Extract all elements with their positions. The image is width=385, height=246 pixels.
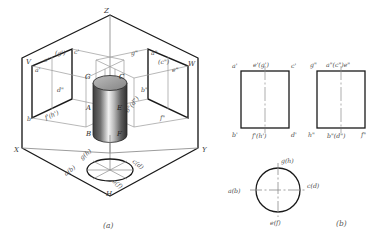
technical-drawing: Z X Y V W H a' e' (g') c' b' f'(h') d" xyxy=(0,0,385,246)
label-b-prime-pictorial: b' xyxy=(27,115,33,122)
top-view-label-a-b: a(b) xyxy=(228,187,241,194)
label-a-b-pictorial: a(b) xyxy=(62,163,77,177)
v-rail-lower xyxy=(32,66,86,127)
caption-b: (b) xyxy=(336,219,347,228)
side-view-label-g-dprime: g" xyxy=(310,61,317,69)
label-a-prime-pictorial: a' xyxy=(35,66,41,73)
side-view-label-h-dprime: h" xyxy=(308,131,315,138)
front-view-label-c-prime: c' xyxy=(291,62,296,69)
pictorial-view: Z X Y V W H a' e' (g') c' b' f'(h') d" xyxy=(13,7,208,230)
front-view-label-a-prime: a' xyxy=(232,62,238,69)
label-B-solid: B xyxy=(85,130,91,138)
cylinder-body xyxy=(93,83,127,143)
top-view-label-g-h: g(h) xyxy=(281,157,294,165)
label-b-dprime-pictorial: b" xyxy=(141,86,148,93)
top-view-label-e-f: e(f) xyxy=(270,219,281,227)
label-C-solid: C xyxy=(119,73,125,81)
caption-a: (a) xyxy=(103,221,113,230)
label-c-dprime-pictorial: (c") xyxy=(158,58,170,65)
side-view-label-f-dprime: f" xyxy=(360,131,366,139)
side-view-label-a-c-e-dprime: a"(c")e" xyxy=(326,61,350,68)
axis-label-z: Z xyxy=(103,7,109,15)
side-view-label-b-d-dprime: b"(d") xyxy=(327,132,346,139)
front-view xyxy=(241,66,289,133)
side-view xyxy=(317,66,365,133)
axis-label-x: X xyxy=(13,146,20,154)
label-g-dprime-pictorial: g" xyxy=(131,49,138,57)
label-g-prime-pictorial: (g') xyxy=(55,49,66,57)
top-view-label-c-d: c(d) xyxy=(307,182,320,189)
top-view xyxy=(250,163,306,217)
label-A-solid: A xyxy=(85,104,91,112)
front-view-label-b-prime: b' xyxy=(232,131,238,138)
front-view-label-d-prime: d' xyxy=(291,131,297,138)
label-G-solid: G xyxy=(85,73,91,81)
label-d-prime-pictorial: d" xyxy=(57,86,64,93)
label-a-dprime-pictorial: a" xyxy=(151,49,158,56)
orthographic-views: a' e'(g') c' b' f'(h') d' g" a"(c")e" h"… xyxy=(228,61,366,228)
label-E-solid: E xyxy=(116,104,122,112)
label-c-prime-pictorial: c' xyxy=(74,48,79,55)
figure-container: Z X Y V W H a' e' (g') c' b' f'(h') d" xyxy=(0,0,385,246)
label-g-h-pictorial: g(h) xyxy=(78,147,93,162)
x-axis xyxy=(22,148,110,153)
axis-label-y: Y xyxy=(202,146,208,154)
plane-label-w: W xyxy=(188,60,196,68)
label-f-dprime-pictorial: f" xyxy=(159,114,165,122)
front-view-label-e-g-prime: e'(g') xyxy=(253,61,269,69)
label-e-prime-pictorial: e' xyxy=(44,56,50,63)
label-e-dprime-pictorial: e" xyxy=(172,66,179,73)
front-view-label-f-h-prime: f'(h') xyxy=(251,132,267,140)
y-axis xyxy=(110,148,198,153)
plane-label-v: V xyxy=(26,58,32,66)
plane-label-h: H xyxy=(105,190,113,198)
label-f-h-prime-pictorial: f'(h') xyxy=(43,108,61,122)
